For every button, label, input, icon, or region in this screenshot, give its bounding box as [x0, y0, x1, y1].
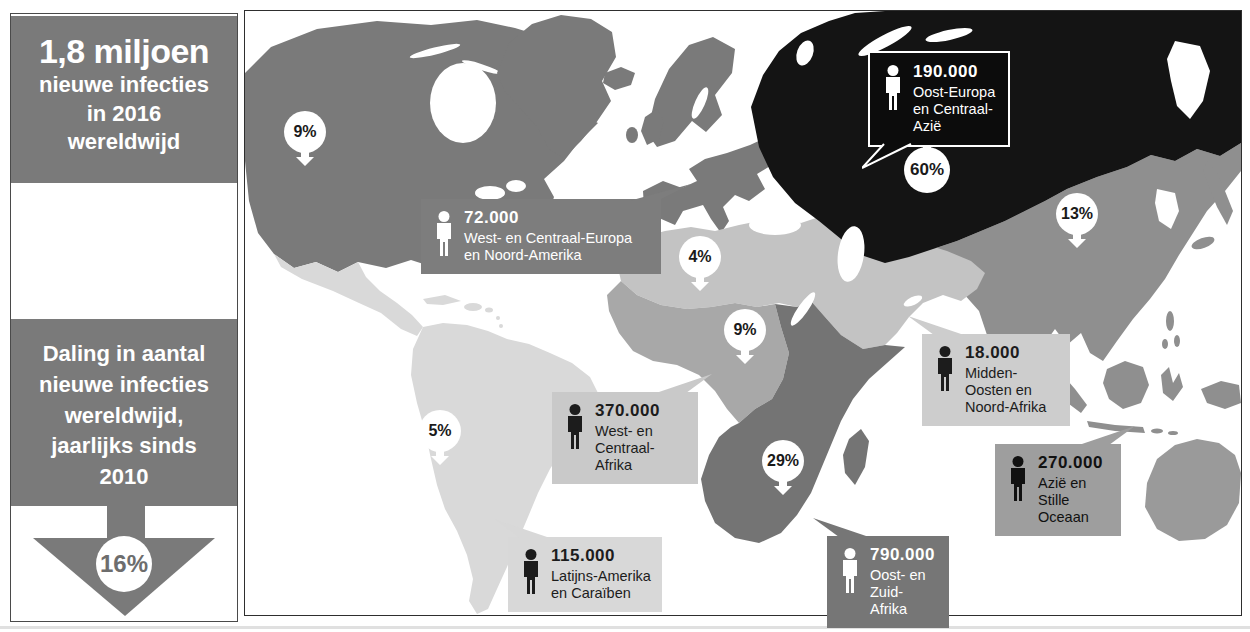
- infographic-hiv-new-infections-2016: 1,8 miljoen nieuwe infecties in 2016 wer…: [0, 0, 1250, 632]
- person-icon: [520, 549, 542, 595]
- region-philippines: [1162, 339, 1168, 349]
- great-lakes: [475, 186, 505, 200]
- decline-panel: Daling in aantal nieuwe infecties wereld…: [11, 319, 237, 506]
- percent-value: 9%: [293, 123, 316, 141]
- region-sulawesi: [1161, 367, 1183, 401]
- decline-line: wereldwijd,: [11, 401, 237, 432]
- arrow-down-icon: [1067, 233, 1087, 248]
- percent-circle: 60%: [904, 147, 950, 193]
- region-new-guinea: [1201, 381, 1241, 409]
- percent-value: 5%: [428, 422, 451, 440]
- scan-shadow: [0, 626, 1250, 629]
- region-philippines: [1166, 311, 1174, 331]
- decline-line: 2010: [11, 462, 237, 493]
- callout-value: 270.000: [1038, 454, 1111, 473]
- percent-value: 60%: [910, 160, 944, 180]
- black-sea: [749, 215, 801, 235]
- arrow-down-icon: [430, 450, 450, 465]
- lesser-sunda: [1151, 429, 1163, 434]
- callout-value: 72.000: [464, 209, 651, 228]
- person-icon: [564, 404, 586, 450]
- percent-circle: 9%: [724, 309, 766, 351]
- callout-west-central-europe-north-america: 72.000 West- en Centraal-Europa en Noord…: [421, 199, 661, 274]
- stat-badge-south-america: 5%: [419, 410, 461, 465]
- decline-percent: 16%: [100, 550, 148, 577]
- decline-arrow: 16%: [11, 506, 237, 621]
- region-philippines: [1174, 335, 1180, 347]
- percent-circle: 29%: [762, 440, 804, 482]
- decline-line: nieuwe infecties: [11, 370, 237, 401]
- percent-value: 13%: [1061, 205, 1093, 223]
- headline-line: in 2016: [11, 100, 237, 129]
- percent-circle: 4%: [679, 236, 721, 278]
- callout-latin-america-caribbean: 115.000 Latijns-Amerika en Caraïben: [508, 537, 662, 612]
- callout-asia-pacific: 270.000 Azië en Stille Oceaan: [995, 444, 1121, 536]
- headline-line: 1,8 miljoen: [11, 32, 237, 71]
- decline-line: jaarlijks sinds: [11, 431, 237, 462]
- percent-circle: 9%: [284, 111, 326, 153]
- stat-badge-asia: 13%: [1056, 193, 1098, 248]
- person-icon: [839, 548, 861, 594]
- callout-middle-east-north-africa: 18.000 Midden-Oosten en Noord-Afrika: [922, 334, 1070, 426]
- callout-east-south-africa: 790.000 Oost- en Zuid-Afrika: [827, 536, 949, 628]
- world-map: 9% 60% 13% 4% 9% 29% 5%: [244, 10, 1242, 616]
- region-hispaniola: [464, 303, 482, 311]
- headline-panel: 1,8 miljoen nieuwe infecties in 2016 wer…: [11, 16, 237, 183]
- lesser-sunda: [1168, 431, 1178, 435]
- caribbean-island: [496, 316, 500, 320]
- caribbean-island: [499, 324, 503, 328]
- arrow-down-icon: [690, 276, 710, 291]
- big-down-arrow-icon: 16%: [11, 506, 237, 621]
- region-cuba: [423, 295, 461, 305]
- headline-line: nieuwe infecties: [11, 71, 237, 100]
- stat-badge-central-africa: 9%: [724, 309, 766, 364]
- percent-value: 4%: [688, 248, 711, 266]
- region-australia: [1145, 439, 1241, 541]
- arrow-down-icon: [295, 151, 315, 166]
- arrow-down-icon: [773, 480, 793, 495]
- region-borneo: [1103, 361, 1149, 409]
- region-java: [1087, 421, 1145, 433]
- callout-region: West- en Centraal-Afrika: [595, 423, 688, 474]
- callout-eastern-europe-central-asia: 190.000 Oost-Europa en Centraal-Azië: [868, 51, 1010, 147]
- headline-line: wereldwijd: [11, 128, 237, 157]
- percent-value: 29%: [767, 452, 799, 470]
- hudson-bay: [430, 63, 496, 143]
- region-madagascar: [843, 429, 869, 485]
- stat-badge-southern-africa: 29%: [762, 440, 804, 495]
- callout-value: 190.000: [913, 63, 998, 82]
- callout-value: 790.000: [870, 546, 939, 565]
- percent-circle: 5%: [419, 410, 461, 452]
- callout-region: West- en Centraal-Europa en Noord-Amerik…: [464, 230, 651, 264]
- callout-value: 18.000: [965, 344, 1060, 363]
- callout-value: 115.000: [551, 547, 652, 566]
- person-icon: [1007, 456, 1029, 502]
- callout-value: 370.000: [595, 402, 688, 421]
- stat-badge-north-america: 9%: [284, 111, 326, 166]
- great-lakes: [506, 180, 526, 192]
- person-icon: [433, 211, 455, 257]
- stat-badge-north-africa: 4%: [679, 236, 721, 291]
- decline-line: Daling in aantal: [11, 339, 237, 370]
- callout-west-central-africa: 370.000 West- en Centraal-Afrika: [552, 392, 698, 484]
- callout-region: Oost- en Zuid-Afrika: [870, 567, 939, 618]
- sidebar: 1,8 miljoen nieuwe infecties in 2016 wer…: [10, 13, 238, 622]
- callout-region: Midden-Oosten en Noord-Afrika: [965, 365, 1060, 416]
- person-icon: [882, 65, 904, 111]
- callout-region: Azië en Stille Oceaan: [1038, 475, 1111, 526]
- region-ireland: [626, 127, 638, 143]
- caribbean-island: [485, 308, 493, 313]
- callout-region: Latijns-Amerika en Caraïben: [551, 568, 652, 602]
- person-icon: [934, 346, 956, 392]
- percent-value: 9%: [733, 321, 756, 339]
- region-japan-south: [1190, 234, 1216, 252]
- callout-region: Oost-Europa en Centraal-Azië: [913, 84, 998, 135]
- arrow-down-icon: [735, 349, 755, 364]
- percent-circle: 13%: [1056, 193, 1098, 235]
